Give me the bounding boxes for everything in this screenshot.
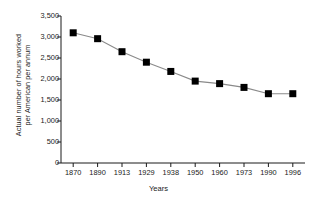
data-point-marker — [192, 78, 199, 85]
chart-container: Actual number of hours worked per Americ… — [0, 0, 317, 202]
data-point-marker — [167, 68, 174, 75]
data-point-marker — [119, 48, 126, 55]
data-point-marker — [241, 84, 248, 91]
data-point-marker — [216, 80, 223, 87]
data-point-marker — [289, 90, 296, 97]
data-point-marker — [265, 90, 272, 97]
data-series-line — [73, 33, 293, 94]
data-point-marker — [70, 29, 77, 36]
plot-area — [0, 0, 317, 202]
data-point-marker — [143, 59, 150, 66]
x-axis-title: Years — [0, 184, 317, 193]
data-point-marker — [94, 35, 101, 42]
